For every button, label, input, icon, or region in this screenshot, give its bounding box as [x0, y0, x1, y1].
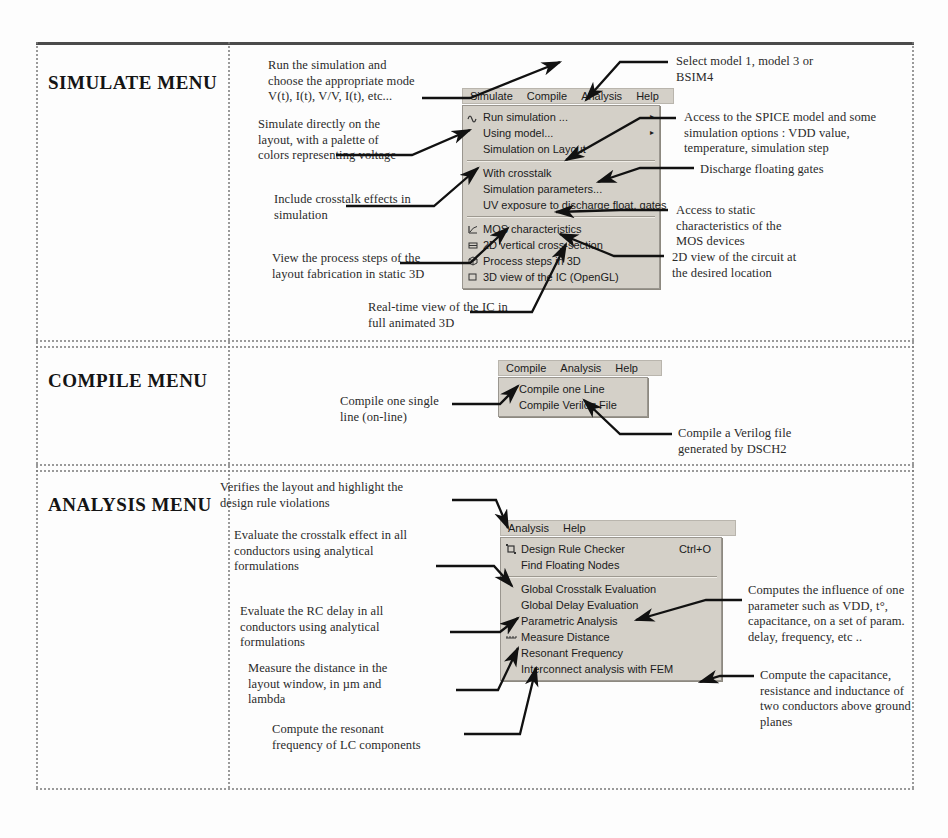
menu-item-label: UV exposure to discharge float. gates	[483, 199, 666, 211]
menu-separator	[505, 576, 717, 578]
note-discharge-gates: Discharge floating gates	[700, 162, 910, 178]
note-compile-one-line: Compile one single line (on-line)	[340, 394, 510, 425]
menu-item-label: Global Crosstalk Evaluation	[521, 583, 656, 595]
analysis-dropdown[interactable]: Design Rule Checker Ctrl+O Find Floating…	[500, 537, 722, 681]
menu-item-label: Process steps in 3D	[483, 255, 581, 267]
menu-item-parametric-analysis[interactable]: Parametric Analysis	[501, 613, 721, 629]
menu-item-run-simulation[interactable]: Run simulation ... ▸	[463, 109, 659, 125]
wave-icon	[467, 111, 479, 123]
menu-item-label: Simulation parameters...	[483, 183, 602, 195]
note-static-characteristics: Access to static characteristics of the …	[676, 203, 836, 250]
menu-item-label: Global Delay Evaluation	[521, 599, 638, 611]
menu-separator	[467, 216, 655, 218]
note-fem-analysis: Compute the capacitance, resistance and …	[760, 668, 928, 730]
note-include-crosstalk: Include crosstalk effects in simulation	[274, 192, 464, 223]
menu-item-compile-one-line[interactable]: Compile one Line	[499, 381, 647, 397]
menu-item-simulation-on-layout[interactable]: Simulation on Layout	[463, 141, 659, 157]
menu-item-label: Compile one Line	[519, 383, 605, 395]
menubar-item-simulate[interactable]: Simulate	[470, 90, 513, 102]
menu-item-label: Resonant Frequency	[521, 647, 623, 659]
menu-item-label: With crosstalk	[483, 167, 551, 179]
section-divider-2	[36, 464, 914, 466]
menubar-item-analysis[interactable]: Analysis	[508, 522, 549, 534]
menubar-item-compile[interactable]: Compile	[506, 362, 546, 374]
menu-item-uv-exposure[interactable]: UV exposure to discharge float. gates	[463, 197, 659, 213]
menu-item-label: Using model...	[483, 127, 553, 139]
menu-item-label: Interconnect analysis with FEM	[521, 663, 673, 675]
chart-icon	[467, 223, 479, 235]
menubar-item-help[interactable]: Help	[563, 522, 586, 534]
menu-item-label: Find Floating Nodes	[521, 559, 619, 571]
frame-left-rule	[36, 42, 38, 788]
note-run-simulation: Run the simulation and choose the approp…	[268, 58, 458, 105]
note-design-rule-checker: Verifies the layout and highlight the de…	[220, 480, 470, 511]
menu-item-label: Run simulation ...	[483, 111, 568, 123]
section-icon	[467, 239, 479, 251]
section-divider-1	[36, 340, 914, 342]
compile-dropdown[interactable]: Compile one Line Compile Verilog File	[498, 377, 648, 417]
note-select-model: Select model 1, model 3 or BSIM4	[676, 54, 886, 85]
note-global-crosstalk: Evaluate the crosstalk effect in all con…	[234, 528, 474, 575]
section-title-compile: COMPILE MENU	[48, 370, 208, 392]
menu-separator	[467, 160, 655, 162]
menu-item-global-delay-evaluation[interactable]: Global Delay Evaluation	[501, 597, 721, 613]
ruler-icon	[505, 631, 517, 643]
menu-item-label: Design Rule Checker	[521, 543, 625, 555]
analysis-menubar[interactable]: Analysis Help	[500, 520, 736, 536]
menu-item-simulation-parameters[interactable]: Simulation parameters...	[463, 181, 659, 197]
section-divider-2b	[36, 470, 914, 472]
menu-item-label: 2D vertical cross-section	[483, 239, 603, 251]
note-simulate-on-layout: Simulate directly on the layout, with a …	[258, 117, 448, 164]
drc-icon	[505, 543, 517, 555]
note-process-steps: View the process steps of the layout fab…	[272, 251, 472, 282]
menu-item-design-rule-checker[interactable]: Design Rule Checker Ctrl+O	[501, 541, 721, 557]
menu-item-global-crosstalk-evaluation[interactable]: Global Crosstalk Evaluation	[501, 581, 721, 597]
chevron-right-icon: ▸	[650, 109, 654, 125]
note-parametric-analysis: Computes the influence of one parameter …	[748, 583, 926, 645]
simulate-menubar[interactable]: Simulate Compile Analysis Help	[462, 88, 674, 104]
menu-item-label: Parametric Analysis	[521, 615, 618, 627]
menu-item-label: 3D view of the IC (OpenGL)	[483, 271, 619, 283]
chevron-right-icon: ▸	[650, 125, 654, 141]
menu-item-compile-verilog-file[interactable]: Compile Verilog File	[499, 397, 647, 413]
note-2d-view: 2D view of the circuit at the desired lo…	[672, 250, 852, 281]
menu-item-find-floating-nodes[interactable]: Find Floating Nodes	[501, 557, 721, 573]
menu-item-using-model[interactable]: Using model... ▸	[463, 125, 659, 141]
menu-item-measure-distance[interactable]: Measure Distance	[501, 629, 721, 645]
note-rc-delay: Evaluate the RC delay in all conductors …	[240, 604, 470, 651]
section-title-simulate: SIMULATE MENU	[48, 72, 217, 94]
menubar-item-analysis[interactable]: Analysis	[560, 362, 601, 374]
menu-item-label: Compile Verilog File	[519, 399, 617, 411]
scanned-page: SIMULATE MENU COMPILE MENU ANALYSIS MENU…	[0, 0, 948, 838]
section-title-analysis: ANALYSIS MENU	[48, 494, 212, 516]
menu-item-2d-cross-section[interactable]: 2D vertical cross-section	[463, 237, 659, 253]
menubar-item-analysis[interactable]: Analysis	[581, 90, 622, 102]
menubar-item-compile[interactable]: Compile	[527, 90, 567, 102]
page-top-rule	[36, 42, 914, 45]
column-divider-rule	[228, 42, 230, 788]
menu-item-label: Measure Distance	[521, 631, 610, 643]
menu-item-interconnect-analysis-fem[interactable]: Interconnect analysis with FEM	[501, 661, 721, 677]
section-divider-1b	[36, 346, 914, 348]
menu-item-label: MOS characteristics	[483, 223, 581, 235]
note-compile-verilog: Compile a Verilog file generated by DSCH…	[678, 426, 878, 457]
simulate-dropdown[interactable]: Run simulation ... ▸ Using model... ▸ Si…	[462, 105, 660, 289]
page-bottom-rule	[36, 788, 914, 790]
menu-item-3d-view-opengl[interactable]: 3D view of the IC (OpenGL)	[463, 269, 659, 285]
menu-item-mos-characteristics[interactable]: MOS characteristics	[463, 221, 659, 237]
note-realtime-3d: Real-time view of the IC in full animate…	[368, 300, 568, 331]
menu-item-resonant-frequency[interactable]: Resonant Frequency	[501, 645, 721, 661]
note-measure-distance: Measure the distance in the layout windo…	[248, 661, 468, 708]
menu-item-with-crosstalk[interactable]: With crosstalk	[463, 165, 659, 181]
note-spice-model: Access to the SPICE model and some simul…	[684, 110, 904, 157]
menu-item-accelerator: Ctrl+O	[653, 543, 711, 555]
menu-item-process-steps-3d[interactable]: Process steps in 3D	[463, 253, 659, 269]
note-resonant-frequency: Compute the resonant frequency of LC com…	[272, 722, 492, 753]
menubar-item-help[interactable]: Help	[636, 90, 659, 102]
compile-menubar[interactable]: Compile Analysis Help	[498, 360, 662, 376]
menu-item-label: Simulation on Layout	[483, 143, 586, 155]
menubar-item-help[interactable]: Help	[615, 362, 638, 374]
